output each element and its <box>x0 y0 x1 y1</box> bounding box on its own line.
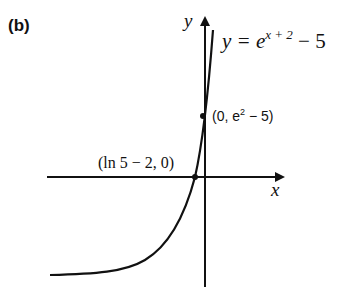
equation-label: y = ex + 2 − 5 <box>220 27 326 53</box>
graph-canvas: (b) y x y = ex + 2 − 5 (0, e2 − 5) (ln 5… <box>0 0 349 301</box>
y-intercept-point <box>200 113 206 119</box>
y-intercept-label: (0, e2 − 5) <box>212 107 273 124</box>
x-axis-label: x <box>270 179 280 200</box>
x-intercept-label: (ln 5 − 2, 0) <box>98 154 174 172</box>
y-axis-label: y <box>182 10 193 31</box>
part-label: (b) <box>8 16 30 35</box>
x-intercept-point <box>192 174 198 180</box>
curve <box>50 30 213 275</box>
